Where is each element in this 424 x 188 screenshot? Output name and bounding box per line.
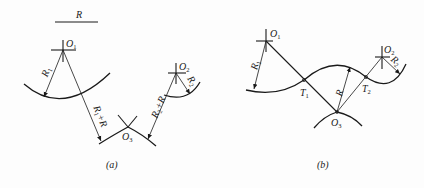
label-o3: O3	[122, 131, 132, 143]
label-o1: O1	[270, 28, 280, 40]
label-o1: O1	[66, 38, 76, 50]
radius-r-arrow	[337, 67, 350, 112]
label-r2: R2	[388, 53, 404, 69]
arc-tangent-construction-diagram: R O1 R1 R1+R O3 O2 R2	[0, 0, 424, 188]
label-t2: T2	[362, 83, 371, 95]
center-mark-o3	[118, 115, 137, 127]
label-r1: R1	[39, 65, 54, 79]
label-r2-plus-r: R2+R	[148, 95, 168, 121]
diagram-canvas: R O1 R1 R1+R O3 O2 R2	[0, 0, 424, 188]
label-t1: T1	[300, 87, 309, 99]
scale-bar-label: R	[75, 9, 82, 20]
caption-a: (a)	[106, 159, 118, 171]
label-o2: O2	[179, 61, 189, 73]
label-o2: O2	[384, 44, 394, 56]
label-o3: O3	[331, 117, 341, 129]
arc-r-connecting	[304, 65, 366, 80]
radius-r1-plus-r-arrow	[63, 50, 101, 141]
label-r1: R1	[248, 59, 262, 72]
caption-b: (b)	[317, 159, 329, 171]
figure-a: R O1 R1 R1+R O3 O2 R2	[24, 9, 200, 171]
center-line-o1-o3	[266, 41, 337, 112]
arc-r1	[24, 73, 110, 99]
radius-r2-arrow	[176, 73, 190, 94]
label-r1-plus-r: R1+R	[90, 103, 110, 129]
figure-b: O1 R1 T1 T2 O2 R2 R	[246, 28, 406, 171]
